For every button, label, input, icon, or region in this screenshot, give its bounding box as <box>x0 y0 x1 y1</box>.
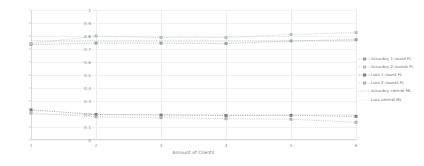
data-point-marker <box>290 118 293 121</box>
legend-item[interactable]: Accuracy 1 round FL <box>358 55 424 63</box>
y-axis-tick-mark <box>29 114 31 115</box>
y-axis-tick-label: 0 <box>88 138 91 143</box>
y-axis-tick-mark <box>29 75 31 76</box>
data-point-marker <box>355 121 358 124</box>
series-accuracy-1-round-fl <box>30 38 358 46</box>
y-axis-tick-label: 0.7 <box>84 47 91 52</box>
y-axis-tick-label: 0.8 <box>84 34 91 39</box>
legend-label: Loss 2 rounds FL <box>371 79 404 87</box>
series-line <box>31 40 356 45</box>
y-axis-tick-mark <box>29 10 31 11</box>
series-layer <box>31 10 356 140</box>
legend-marker-icon <box>358 87 371 95</box>
legend-label: Accuracy 1 round FL <box>371 55 412 63</box>
x-axis-tick-label: 5 <box>290 143 293 148</box>
x-axis-tick-label: 3 <box>160 143 163 148</box>
gridline-horizontal <box>31 140 356 141</box>
chart-figure: 00.10.20.30.40.50.60.70.80.91123456 Amou… <box>0 0 424 166</box>
data-point-marker <box>95 115 98 118</box>
x-axis-tick-label: 1 <box>30 143 33 148</box>
y-axis-tick-label: 0.9 <box>84 21 91 26</box>
y-axis-tick-mark <box>29 49 31 50</box>
y-axis-tick-mark <box>29 140 31 141</box>
y-axis-tick-label: 0.6 <box>84 60 91 65</box>
legend-marker-icon <box>358 79 371 87</box>
data-point-marker <box>225 42 228 45</box>
y-axis-tick-mark <box>29 36 31 37</box>
data-point-marker <box>160 114 163 117</box>
y-axis-tick-mark <box>29 23 31 24</box>
plot-area <box>31 10 356 140</box>
legend-label: Loss 1 round FL <box>371 71 402 79</box>
series-line <box>31 33 356 44</box>
legend-label: Accuracy central ML <box>371 87 411 95</box>
legend-marker-icon <box>358 71 371 79</box>
legend-item[interactable]: Accuracy central ML <box>358 87 424 95</box>
y-axis-tick-label: 0.5 <box>84 73 91 78</box>
x-axis-tick-label: 2 <box>95 143 98 148</box>
data-point-marker <box>160 42 163 45</box>
series-loss-1-round-fl <box>30 108 358 118</box>
series-line <box>31 113 356 122</box>
data-point-marker <box>225 117 228 120</box>
chart-legend: Accuracy 1 round FLAccuracy 2 rounds FLL… <box>358 55 424 104</box>
legend-label: Loss central ML <box>371 96 402 104</box>
series-line <box>31 110 356 117</box>
legend-marker-icon <box>358 63 371 71</box>
y-axis-tick-label: 1 <box>88 8 91 13</box>
legend-item[interactable]: Loss 2 rounds FL <box>358 79 424 87</box>
data-point-marker <box>95 35 98 38</box>
data-point-marker <box>290 33 293 36</box>
data-point-marker <box>30 108 33 111</box>
legend-marker-icon <box>358 55 371 63</box>
data-point-marker <box>160 36 163 39</box>
data-point-marker <box>30 42 33 45</box>
y-axis-tick-mark <box>29 88 31 89</box>
legend-item[interactable]: Loss central ML <box>358 95 424 103</box>
gridline-vertical <box>356 10 357 140</box>
data-point-marker <box>160 116 163 119</box>
data-point-marker <box>95 42 98 45</box>
y-axis-tick-mark <box>29 62 31 63</box>
y-axis-tick-label: 0.1 <box>84 125 91 130</box>
data-point-marker <box>290 114 293 117</box>
x-axis-label: Amount of Clients <box>31 150 356 155</box>
legend-label: Accuracy 2 rounds FL <box>371 63 414 71</box>
y-axis-tick-label: 0.3 <box>84 99 91 104</box>
y-axis-tick-label: 0.2 <box>84 112 91 117</box>
y-axis-tick-mark <box>29 127 31 128</box>
data-point-marker <box>355 31 358 34</box>
y-axis-tick-mark <box>29 101 31 102</box>
series-loss-2-rounds-fl <box>30 111 358 123</box>
legend-item[interactable]: Loss 1 round FL <box>358 71 424 79</box>
y-axis-tick-label: 0.4 <box>84 86 91 91</box>
data-point-marker <box>355 115 358 118</box>
series-accuracy-2-rounds-fl <box>30 31 358 45</box>
x-axis-tick-label: 6 <box>355 143 358 148</box>
x-axis-tick-label: 4 <box>225 143 228 148</box>
legend-item[interactable]: Accuracy 2 rounds FL <box>358 63 424 71</box>
data-point-marker <box>225 114 228 117</box>
data-point-marker <box>225 36 228 39</box>
legend-marker-icon <box>358 96 371 104</box>
